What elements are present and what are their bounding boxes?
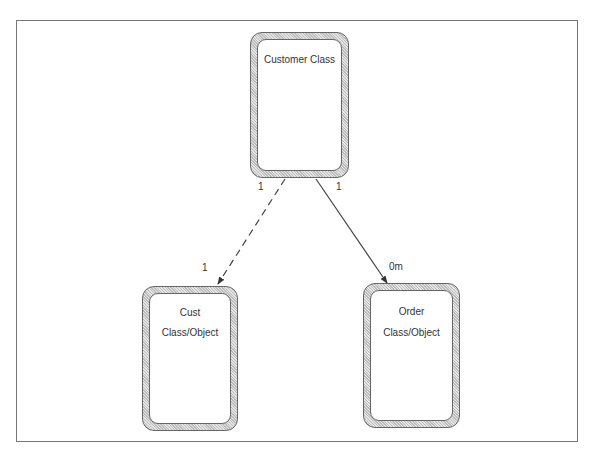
multiplicity-customer-cust: 1 — [258, 181, 264, 192]
order-class-name: Order — [364, 306, 459, 317]
dashed-association — [218, 179, 285, 284]
order-class-box[interactable]: Order Class/Object — [363, 283, 460, 428]
multiplicity-cust-end: 1 — [202, 262, 208, 273]
multiplicity-order-end: 0m — [389, 261, 403, 272]
customer-class-box[interactable]: Customer Class — [250, 32, 349, 178]
cust-class-type: Class/Object — [143, 327, 237, 338]
cust-class-box[interactable]: Cust Class/Object — [142, 286, 238, 431]
cust-class-name: Cust — [143, 307, 237, 318]
solid-association — [316, 179, 387, 283]
multiplicity-customer-order: 1 — [336, 181, 342, 192]
customer-class-label: Customer Class — [251, 54, 348, 65]
order-class-type: Class/Object — [364, 327, 459, 338]
